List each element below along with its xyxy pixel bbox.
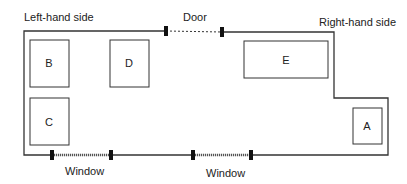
room-a-label: A: [363, 120, 370, 132]
room-d-label: D: [125, 57, 133, 69]
room-e-label: E: [282, 54, 289, 66]
window-label-1: Window: [65, 165, 104, 177]
door-opening: [166, 31, 222, 32]
outer-walls: [24, 31, 388, 155]
left-hand-side-label: Left-hand side: [24, 11, 94, 23]
right-hand-side-label: Right-hand side: [319, 16, 396, 28]
window-label-2: Window: [206, 167, 245, 179]
opening-markers: [50, 26, 253, 160]
door-label: Door: [183, 11, 207, 23]
room-c-label: C: [45, 116, 53, 128]
room-b-label: B: [45, 57, 52, 69]
